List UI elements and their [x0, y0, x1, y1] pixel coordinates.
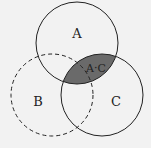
label-a-c: A·C — [85, 62, 106, 75]
label-b: B — [33, 94, 43, 109]
label-c: C — [111, 94, 121, 109]
venn-diagram: A B C A·C — [0, 0, 151, 148]
label-a: A — [71, 26, 82, 41]
